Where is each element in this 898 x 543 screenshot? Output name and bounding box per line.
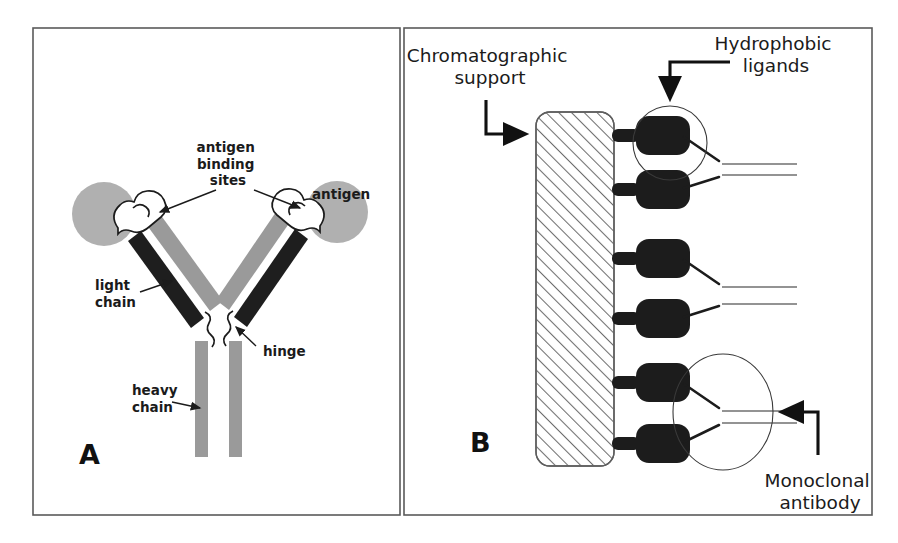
ligand-head-5 bbox=[636, 363, 690, 402]
label-monoclonal-antibody: Monoclonal antibody bbox=[764, 470, 875, 513]
ligand-head-2 bbox=[636, 170, 690, 209]
panel-letter-a: A bbox=[79, 439, 100, 470]
ligand-stem-3 bbox=[612, 252, 640, 265]
panel-letter-b: B bbox=[470, 427, 491, 458]
ligand-stem-4 bbox=[612, 312, 640, 325]
ligand-stem-6 bbox=[612, 437, 640, 450]
ligand-head-6 bbox=[636, 424, 690, 463]
heavy-chain-stem-right bbox=[229, 341, 242, 457]
ligand-stem-5 bbox=[612, 376, 640, 389]
ligand-stem-2 bbox=[612, 183, 640, 196]
ligand-head-1 bbox=[636, 116, 690, 155]
heavy-chain-stem-left bbox=[195, 341, 208, 457]
panel-b: Chromatographic support Hydrophobic liga… bbox=[404, 28, 876, 515]
panel-a: antigen binding sites antigen light chai… bbox=[33, 28, 400, 515]
ligand-head-4 bbox=[636, 299, 690, 338]
label-antigen: antigen bbox=[312, 186, 370, 202]
ligand-stem-1 bbox=[612, 129, 640, 142]
figure-root: antigen binding sites antigen light chai… bbox=[0, 0, 898, 543]
figure-canvas: antigen binding sites antigen light chai… bbox=[0, 0, 898, 543]
label-hinge: hinge bbox=[263, 343, 306, 359]
label-light-chain: light chain bbox=[95, 277, 136, 310]
ligand-head-3 bbox=[636, 239, 690, 278]
support-hatch-fill bbox=[536, 112, 614, 466]
